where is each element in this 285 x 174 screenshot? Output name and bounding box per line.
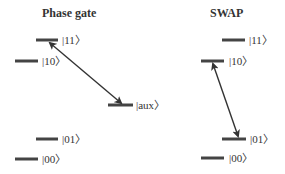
level-label-10-swap: |10〉 (229, 55, 253, 67)
level-label-11-swap: |11〉 (249, 34, 273, 46)
level-label-00-swap: |00〉 (229, 152, 253, 164)
level-label-aux-phase: |aux〉 (136, 99, 165, 111)
panel-title-swap: SWAP (210, 6, 243, 21)
level-label-01-phase: |01〉 (62, 133, 86, 145)
level-label-01-swap: |01〉 (250, 133, 274, 145)
transition-arrow-swap (213, 64, 238, 136)
level-label-11-phase: |11〉 (62, 34, 86, 46)
level-label-00-phase: |00〉 (42, 153, 66, 165)
transition-arrow-phase (50, 43, 121, 103)
panel-title-phase-gate: Phase gate (42, 6, 96, 21)
level-label-10-phase: |10〉 (42, 55, 66, 67)
energy-level-diagram (0, 0, 285, 174)
